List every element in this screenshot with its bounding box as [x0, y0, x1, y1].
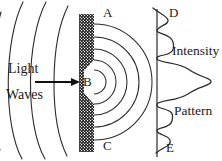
label-slit-b: B	[83, 75, 92, 88]
label-pattern: Pattern	[174, 104, 212, 118]
propagation-direction-arrow	[35, 78, 80, 86]
figure-canvas	[0, 0, 222, 161]
intensity-profile-curve	[153, 8, 211, 153]
label-screen-bottom-e: E	[166, 141, 174, 154]
label-screen-top-d: D	[169, 6, 178, 19]
label-barrier-top-a: A	[103, 6, 112, 19]
incoming-plane-wave-arcs	[0, 2, 68, 159]
label-intensity: Intensity	[172, 44, 219, 58]
diffraction-figure: Light Waves B A C D E Intensity Pattern	[0, 0, 222, 161]
diffracted-circular-arcs	[94, 24, 152, 140]
label-light: Light	[8, 62, 38, 76]
label-waves: Waves	[6, 88, 43, 102]
label-barrier-bottom-c: C	[103, 139, 112, 152]
